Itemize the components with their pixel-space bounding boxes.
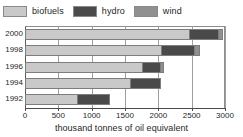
wind-swatch bbox=[134, 6, 158, 17]
bar-segment-biofuels-1998 bbox=[25, 45, 162, 56]
bar-row bbox=[25, 94, 225, 105]
x-tick-label-0: 0 bbox=[23, 112, 27, 120]
bar-segment-biofuels-2000 bbox=[25, 29, 190, 40]
bar-segment-biofuels-1996 bbox=[25, 62, 143, 73]
plot-area bbox=[25, 26, 225, 108]
legend-label-biofuels: biofuels bbox=[32, 7, 64, 16]
x-tick-label-3000: 3000 bbox=[216, 112, 234, 120]
bar-segment-wind-1998 bbox=[195, 45, 200, 56]
biofuels-swatch bbox=[3, 6, 27, 17]
x-tick-label-1500: 1500 bbox=[116, 112, 134, 120]
bar-row bbox=[25, 78, 225, 89]
legend-item-hydro: hydro bbox=[73, 6, 134, 17]
bar-segment-hydro-1994 bbox=[131, 78, 161, 89]
bar-segment-hydro-2000 bbox=[190, 29, 219, 40]
bar-row bbox=[25, 29, 225, 40]
bar-segment-wind-1996 bbox=[161, 62, 164, 73]
x-tick-label-2500: 2500 bbox=[183, 112, 201, 120]
y-axis-labels: 20001998199619941992 bbox=[0, 26, 23, 108]
y-axis-label-1992: 1992 bbox=[0, 95, 23, 103]
bar-segment-biofuels-1992 bbox=[25, 94, 78, 105]
y-axis-label-1998: 1998 bbox=[0, 46, 23, 54]
y-axis-label-2000: 2000 bbox=[0, 30, 23, 38]
gridline-3000 bbox=[225, 26, 226, 108]
bar-row bbox=[25, 62, 225, 73]
hydro-swatch bbox=[73, 6, 97, 17]
bar-segment-hydro-1998 bbox=[162, 45, 195, 56]
bar-segment-wind-2000 bbox=[219, 29, 223, 40]
legend-item-biofuels: biofuels bbox=[3, 6, 73, 17]
legend-label-wind: wind bbox=[163, 7, 182, 16]
chart-legend: biofuels hydro wind bbox=[3, 3, 240, 20]
bar-row bbox=[25, 45, 225, 56]
legend-item-wind: wind bbox=[134, 6, 191, 17]
x-tick-label-2000: 2000 bbox=[149, 112, 167, 120]
x-axis-title: thousand tonnes of oil equivalent bbox=[0, 124, 243, 133]
bar-segment-hydro-1992 bbox=[78, 94, 110, 105]
x-tick-label-1000: 1000 bbox=[83, 112, 101, 120]
x-tick-label-500: 500 bbox=[52, 112, 65, 120]
bar-segment-biofuels-1994 bbox=[25, 78, 131, 89]
y-axis-label-1994: 1994 bbox=[0, 79, 23, 87]
stacked-bar-chart: biofuels hydro wind 20001998199619941992… bbox=[0, 0, 243, 137]
y-axis-label-1996: 1996 bbox=[0, 63, 23, 71]
bar-segment-hydro-1996 bbox=[143, 62, 161, 73]
legend-label-hydro: hydro bbox=[102, 7, 125, 16]
